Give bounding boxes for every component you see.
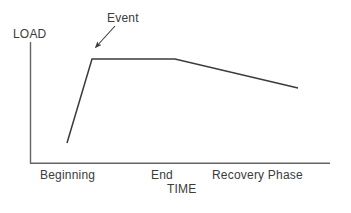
x-axis-label: TIME [167,183,196,195]
x-tick-label-end: End [151,169,173,181]
load-curve [67,59,298,143]
event-annotation-label: Event [107,12,139,24]
x-tick-label-beginning: Beginning [40,169,95,181]
y-axis-label: LOAD [13,28,46,40]
event-annotation-arrow [96,26,116,48]
x-tick-label-recovery-phase: Recovery Phase [212,169,303,181]
chart-canvas: LOAD TIME Beginning End Recovery Phase E… [0,0,351,213]
